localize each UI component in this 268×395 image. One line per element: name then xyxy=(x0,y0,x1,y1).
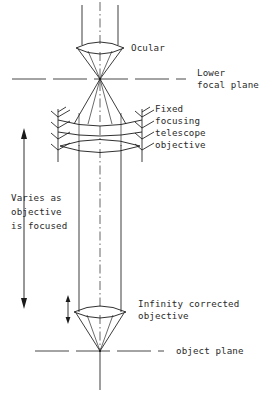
focus-arrow xyxy=(66,295,71,324)
mount-hatch-right xyxy=(135,107,154,150)
svg-text:focal plane: focal plane xyxy=(197,79,259,90)
label-object-plane: object plane xyxy=(176,345,244,356)
svg-text:objective: objective xyxy=(138,310,189,321)
telescope-objective xyxy=(51,107,154,162)
label-ocular: Ocular xyxy=(131,42,165,53)
svg-text:is focused: is focused xyxy=(11,220,67,231)
arrowhead-up xyxy=(21,128,27,139)
label-infinity-corrected-objective: Infinity corrected objective xyxy=(138,298,239,321)
object-plane xyxy=(35,350,164,352)
varies-arrow xyxy=(21,128,27,309)
svg-text:Varies as: Varies as xyxy=(11,192,62,203)
label-lower-focal-plane: Lower focal plane xyxy=(197,67,259,90)
svg-text:Lower: Lower xyxy=(197,67,226,78)
svg-text:focusing: focusing xyxy=(155,115,200,126)
svg-text:Fixed: Fixed xyxy=(155,103,183,114)
svg-text:telescope: telescope xyxy=(155,127,206,138)
svg-text:objective: objective xyxy=(11,206,62,217)
svg-text:Infinity corrected: Infinity corrected xyxy=(138,298,239,309)
optics-svg: Ocular Lower focal plane Fixed focusing … xyxy=(0,0,268,395)
optical-diagram: Ocular Lower focal plane Fixed focusing … xyxy=(0,0,268,395)
label-telescope-objective: Fixed focusing telescope objective xyxy=(155,103,206,150)
svg-text:objective: objective xyxy=(155,139,206,150)
arrowhead-down xyxy=(21,298,27,309)
label-varies-as-objective-is-focused: Varies as objective is focused xyxy=(11,192,67,231)
